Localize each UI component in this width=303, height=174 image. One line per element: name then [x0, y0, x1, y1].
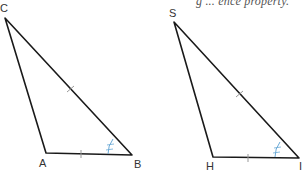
angle-I-tick-1: [273, 152, 280, 153]
vertex-label-C: C: [0, 2, 8, 14]
triangle-CAB-outline: [5, 18, 132, 155]
triangle-CAB: C A B: [0, 2, 141, 170]
vertex-label-H: H: [206, 160, 214, 172]
vertex-label-B: B: [134, 158, 141, 170]
vertex-label-I: I: [299, 160, 302, 172]
angle-B-tick-1: [106, 149, 113, 150]
vertex-label-A: A: [39, 157, 47, 169]
congruent-triangles-diagram: C A B S H I: [0, 0, 303, 174]
angle-B-arc: [108, 139, 113, 154]
triangle-SHI-outline: [174, 22, 299, 158]
angle-I-tick-2: [274, 147, 281, 148]
angle-I-arc: [275, 142, 280, 157]
triangle-SHI: S H I: [169, 7, 302, 172]
vertex-label-S: S: [169, 7, 176, 19]
angle-B-tick-2: [107, 144, 114, 145]
